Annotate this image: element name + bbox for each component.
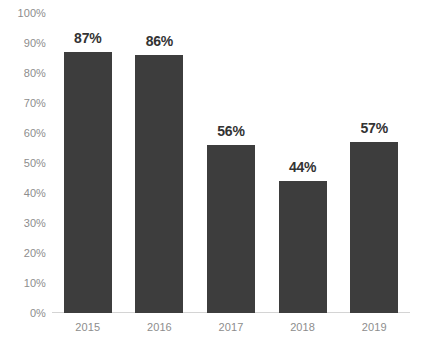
y-axis-tick-label: 90% [24, 37, 46, 49]
bar[interactable] [207, 145, 255, 313]
y-axis-tick-label: 0% [30, 307, 46, 319]
y-axis-tick-label: 80% [24, 67, 46, 79]
x-axis-tick-label: 2019 [338, 321, 410, 333]
x-axis-tick-label: 2017 [195, 321, 267, 333]
y-axis-tick-label: 40% [24, 187, 46, 199]
bar-group: 86% [135, 13, 183, 313]
bar[interactable] [135, 55, 183, 313]
plot-area: 87%86%56%44%57% [52, 13, 410, 313]
bar-value-label: 57% [350, 120, 398, 136]
y-axis-tick-label: 30% [24, 217, 46, 229]
y-axis-tick-label: 10% [24, 277, 46, 289]
x-axis: 20152016201720182019 [52, 318, 410, 345]
bar-group: 56% [207, 13, 255, 313]
bar-value-label: 44% [279, 159, 327, 175]
y-axis-tick-label: 60% [24, 127, 46, 139]
y-axis: 0%10%20%30%40%50%60%70%80%90%100% [0, 0, 52, 345]
bar-value-label: 86% [135, 33, 183, 49]
x-axis-tick-label: 2016 [124, 321, 196, 333]
y-axis-tick-label: 20% [24, 247, 46, 259]
bar[interactable] [350, 142, 398, 313]
bar-group: 87% [64, 13, 112, 313]
bar-chart: 0%10%20%30%40%50%60%70%80%90%100% 87%86%… [0, 0, 422, 345]
bar-value-label: 56% [207, 123, 255, 139]
x-axis-tick-label: 2018 [267, 321, 339, 333]
bar-group: 44% [279, 13, 327, 313]
bar[interactable] [279, 181, 327, 313]
bar-group: 57% [350, 13, 398, 313]
y-axis-tick-label: 100% [17, 7, 46, 19]
bar-value-label: 87% [64, 30, 112, 46]
y-axis-tick-label: 50% [24, 157, 46, 169]
bar[interactable] [64, 52, 112, 313]
x-axis-tick-label: 2015 [52, 321, 124, 333]
y-axis-tick-label: 70% [24, 97, 46, 109]
